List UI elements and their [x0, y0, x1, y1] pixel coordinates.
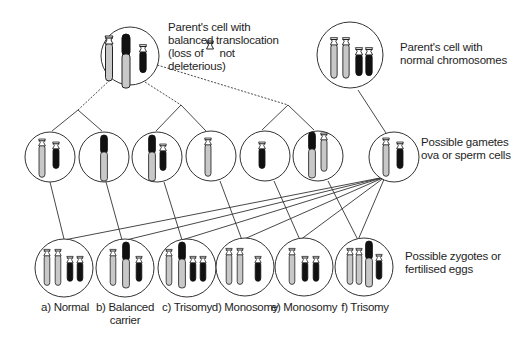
- zygote-f-trisomy: [335, 238, 393, 296]
- zygote-label-b: b) Balanced carrier: [90, 301, 160, 327]
- label-text: not: [219, 47, 234, 59]
- gamete-3: [132, 132, 182, 182]
- label-line: Possible gametes: [421, 136, 511, 149]
- zygote-label-e: e) Monosomy: [269, 301, 339, 314]
- gamete-4: [186, 131, 236, 181]
- label-line: balanced translocation: [168, 34, 279, 47]
- zygote-d-monosomy: [216, 238, 274, 296]
- zygotes-label: Possible zygotes or fertilised eggs: [405, 250, 501, 276]
- label-line: Parent's cell with: [400, 41, 507, 54]
- gamete-2: [79, 132, 129, 182]
- gamete-1: [25, 132, 75, 182]
- normal-parent-label: Parent's cell with normal chromosomes: [400, 41, 507, 67]
- gametes-label: Possible gametes ova or sperm cells: [421, 136, 511, 162]
- label-line: e) Monosomy: [269, 301, 339, 314]
- label-line: normal chromosomes: [400, 54, 507, 67]
- gamete-5: [240, 131, 290, 181]
- gamete-6: [293, 131, 343, 181]
- zygote-b-balanced-carrier: [96, 239, 154, 297]
- label-text: (loss of: [168, 47, 203, 59]
- label-line: Possible zygotes or: [405, 250, 501, 263]
- zygote-c-trisomy: [158, 239, 216, 297]
- label-line: Parent's cell with: [168, 21, 279, 34]
- zygote-e-monosomy: [275, 238, 333, 296]
- zygote-label-f: f) Trisomy: [330, 301, 400, 314]
- label-line: carrier: [90, 314, 160, 327]
- gamete-normal: [369, 132, 419, 182]
- label-line: ova or sperm cells: [421, 149, 511, 162]
- label-line: f) Trisomy: [330, 301, 400, 314]
- label-line: fertilised eggs: [405, 263, 501, 276]
- label-line: b) Balanced: [90, 301, 160, 314]
- label-line: deleterious): [168, 60, 279, 73]
- parent-cell-normal: [317, 22, 383, 88]
- translocation-parent-label: Parent's cell with balanced translocatio…: [168, 21, 279, 73]
- label-line: (loss ofnot: [168, 47, 279, 60]
- zygote-a-normal: [35, 239, 93, 297]
- parent-cell-translocation: [101, 27, 159, 88]
